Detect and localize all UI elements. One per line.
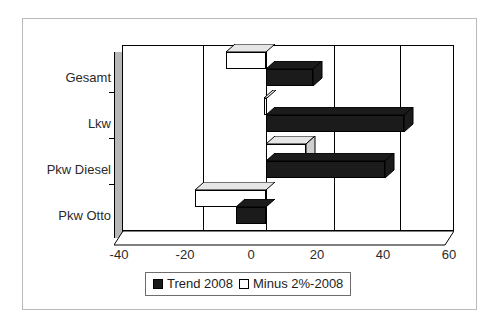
legend-entry-minus-2-2008[interactable]: Minus 2%-2008: [239, 276, 343, 291]
legend-label-trend-2008: Trend 2008: [167, 276, 233, 291]
x-tick-label--40: -40: [110, 247, 129, 262]
x-tick-label-0: 0: [247, 247, 254, 262]
legend-label-minus-2-2008: Minus 2%-2008: [253, 276, 343, 291]
legend-swatch-filled-icon: [153, 279, 163, 289]
x-tick-label-40: 40: [376, 247, 390, 262]
value-axis: -40 -20 0 20 40 60: [23, 19, 478, 311]
x-tick-label-60: 60: [442, 247, 456, 262]
chart-legend: Trend 2008 Minus 2%-2008: [145, 272, 351, 296]
x-tick-label-20: 20: [310, 247, 324, 262]
legend-entry-trend-2008[interactable]: Trend 2008: [153, 276, 233, 291]
plot-area: Gesamt Lkw Pkw Diesel Pkw Otto -40 -20 0…: [23, 19, 478, 311]
x-tick-label--20: -20: [176, 247, 195, 262]
chart-frame: Gesamt Lkw Pkw Diesel Pkw Otto -40 -20 0…: [22, 18, 477, 310]
legend-swatch-empty-icon: [239, 279, 249, 289]
